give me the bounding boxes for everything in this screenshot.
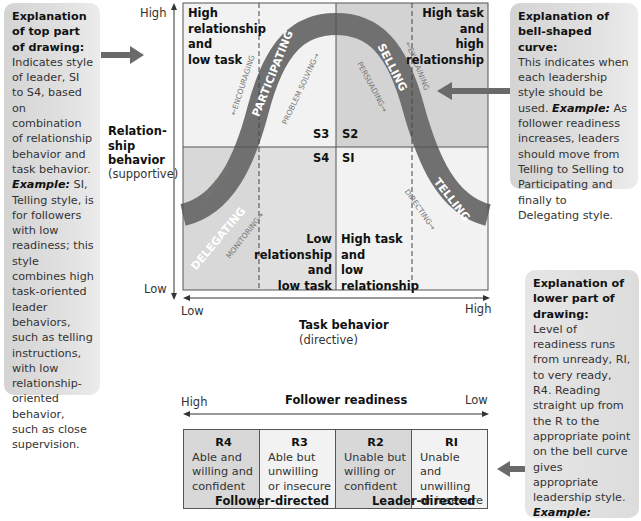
x-axis-subtitle: (directive): [299, 333, 358, 347]
readiness-desc: Able but unwilling or insecure: [268, 451, 331, 495]
quadrant-label-bottom-right: High task and low relationship: [341, 232, 419, 294]
follower-directed-label: Follower-directed: [215, 494, 329, 508]
readiness-title: Follower readiness: [285, 393, 407, 407]
x-axis-high-label: High: [465, 302, 491, 316]
readiness-id: R2: [344, 436, 407, 451]
style-code-s3: S3: [313, 127, 329, 143]
style-code-s2: S2: [342, 127, 358, 143]
readiness-desc: Unable but willing or confident: [344, 451, 407, 495]
y-axis-subtitle: (supportive): [108, 167, 178, 181]
quadrant-label-top-left: High relationship and low task: [188, 6, 266, 68]
x-axis-low-label: Low: [181, 304, 204, 318]
style-code-s4: S4: [313, 151, 329, 167]
leader-directed-label: Leader-directed: [372, 494, 475, 508]
readiness-id: R3: [268, 436, 331, 451]
readiness-desc: Able and willing and confident: [192, 451, 255, 495]
readiness-id: RI: [420, 436, 483, 451]
quadrant-label-bottom-left: Low relationship and low task: [250, 232, 332, 294]
y-axis-title: Relation- ship behavior: [108, 124, 167, 168]
arrow-left-icon: [497, 461, 525, 477]
y-axis-high-label: High: [140, 6, 166, 20]
readiness-id: R4: [192, 436, 255, 451]
quadrant-label-top-right: High task and high relationship: [400, 6, 484, 68]
x-axis-title: Task behavior: [299, 318, 389, 332]
arrow-right-icon: [101, 46, 144, 64]
style-code-s1: SI: [342, 151, 355, 167]
y-axis-low-label: Low: [144, 282, 167, 296]
readiness-high-label: High: [181, 395, 207, 409]
readiness-low-label: Low: [465, 393, 488, 407]
